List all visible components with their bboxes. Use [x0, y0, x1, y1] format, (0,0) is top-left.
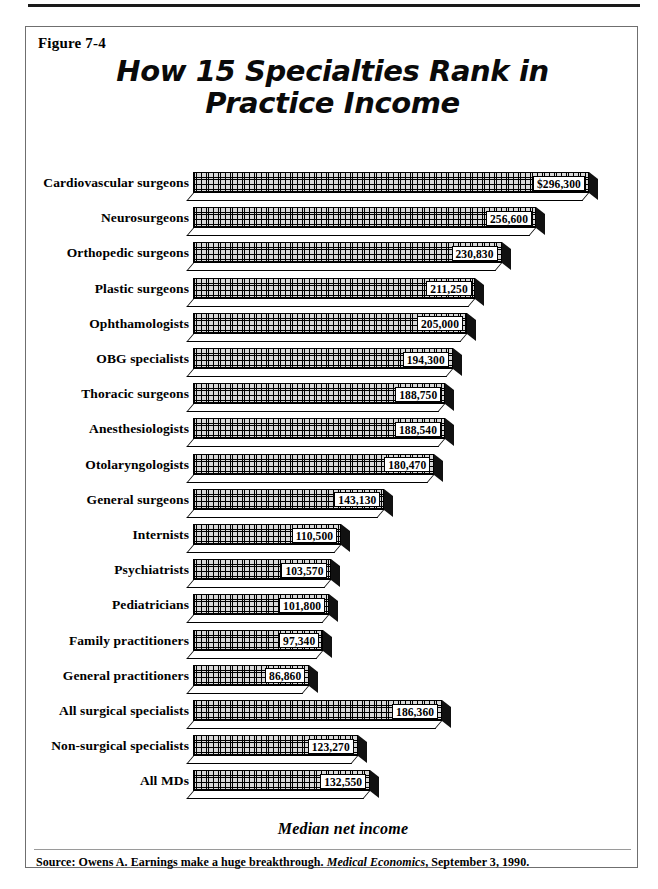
bar-category-label: Thoracic surgeons [0, 386, 189, 402]
bar-row: All MDs132,550 [26, 770, 639, 802]
bar-side-face [329, 594, 338, 622]
bar-bottom-face [186, 334, 467, 342]
bar-bottom-face [186, 263, 501, 271]
bar-value-label: 123,270 [308, 739, 354, 754]
bar-3d: 132,550 [193, 770, 370, 800]
bar-bottom-face [186, 615, 329, 623]
bar-category-label: Anesthesiologists [0, 421, 189, 437]
bar-category-label: Plastic surgeons [0, 281, 189, 297]
bar-category-label: Cardiovascular surgeons [0, 175, 189, 191]
bar-category-label: Family practitioners [0, 633, 189, 649]
figure-page: Figure 7-4 How 15 Specialties Rank in Pr… [0, 0, 658, 889]
bar-value-label: 256,600 [486, 211, 532, 226]
bar-side-face [502, 242, 511, 270]
bar-bottom-face [186, 545, 340, 553]
bar-bottom-face [186, 580, 331, 588]
bar-3d: 194,300 [193, 348, 453, 378]
bar-3d: 101,800 [193, 594, 329, 624]
bar-3d: 256,600 [193, 207, 536, 237]
bar-front-face [193, 172, 589, 193]
bar-row: Family practitioners97,340 [26, 630, 639, 662]
bar-value-label: 101,800 [279, 598, 325, 613]
figure-frame: Figure 7-4 How 15 Specialties Rank in Pr… [25, 26, 638, 868]
bar-3d: 205,000 [193, 313, 467, 343]
bar-3d: 211,250 [193, 278, 475, 308]
bar-bottom-face [186, 475, 434, 483]
bar-row: Neurosurgeons256,600 [26, 207, 639, 239]
bar-category-label: Psychiatrists [0, 562, 189, 578]
bar-row: OBG specialists194,300 [26, 348, 639, 380]
bar-side-face [331, 559, 340, 587]
bar-bottom-face [186, 193, 589, 201]
bar-category-label: Ophthamologists [0, 316, 189, 332]
bar-chart-plot-area: Cardiovascular surgeons$296,300Neurosurg… [26, 27, 639, 869]
bar-value-label: 132,550 [320, 774, 366, 789]
bar-value-label: $296,300 [533, 176, 585, 191]
bar-row: Pediatricians101,800 [26, 594, 639, 626]
bar-category-label: Pediatricians [0, 597, 189, 613]
bar-3d: 97,340 [193, 630, 323, 660]
bar-bottom-face [186, 651, 323, 659]
bar-3d: 103,570 [193, 559, 331, 589]
page-top-rule [28, 4, 640, 7]
bar-3d: 186,360 [193, 700, 442, 730]
bar-3d: 188,750 [193, 383, 445, 413]
bar-3d: 180,470 [193, 454, 434, 484]
bar-category-label: General surgeons [0, 492, 189, 508]
bar-row: Internists110,500 [26, 524, 639, 556]
source-divider [34, 849, 631, 850]
bar-row: Anesthesiologists188,540 [26, 418, 639, 450]
bar-value-label: 194,300 [403, 352, 449, 367]
bar-bottom-face [186, 791, 370, 799]
bar-front-face [193, 207, 536, 228]
bar-bottom-face [186, 299, 475, 307]
bar-3d: 143,130 [193, 489, 384, 519]
bar-category-label: All MDs [0, 773, 189, 789]
bar-category-label: Orthopedic surgeons [0, 245, 189, 261]
bar-row: Non-surgical specialists123,270 [26, 735, 639, 767]
bar-side-face [445, 383, 454, 411]
bar-row: General practitioners86,860 [26, 665, 639, 697]
bar-side-face [475, 278, 484, 306]
bar-category-label: OBG specialists [0, 351, 189, 367]
bar-side-face [358, 735, 367, 763]
bar-category-label: Internists [0, 527, 189, 543]
bar-side-face [309, 665, 318, 693]
bar-category-label: Otolaryngologists [0, 457, 189, 473]
bar-value-label: 103,570 [281, 563, 327, 578]
bar-side-face [384, 489, 393, 517]
bar-side-face [370, 770, 379, 798]
bar-bottom-face [186, 439, 445, 447]
bar-value-label: 211,250 [426, 281, 471, 296]
bar-3d: 110,500 [193, 524, 341, 554]
bar-side-face [341, 524, 350, 552]
bar-bottom-face [186, 369, 452, 377]
bar-value-label: 230,830 [452, 246, 498, 261]
source-prefix: Source: Owens A. Earnings make a huge br… [36, 855, 324, 869]
bar-bottom-face [186, 228, 536, 236]
axis-caption: Median net income [193, 820, 493, 838]
bar-value-label: 110,500 [292, 528, 337, 543]
bar-side-face [536, 207, 545, 235]
source-suffix: , September 3, 1990. [425, 855, 529, 869]
bar-value-label: 97,340 [279, 633, 319, 648]
bar-value-label: 143,130 [334, 492, 380, 507]
bar-3d: 188,540 [193, 418, 445, 448]
bar-3d: $296,300 [193, 172, 589, 202]
bar-row: Ophthamologists205,000 [26, 313, 639, 345]
bar-row: Thoracic surgeons188,750 [26, 383, 639, 415]
bar-row: Cardiovascular surgeons$296,300 [26, 172, 639, 204]
bar-side-face [445, 418, 454, 446]
source-note: Source: Owens A. Earnings make a huge br… [36, 855, 631, 870]
bar-category-label: Neurosurgeons [0, 210, 189, 226]
bar-value-label: 180,470 [384, 457, 430, 472]
bar-row: Plastic surgeons211,250 [26, 278, 639, 310]
bar-bottom-face [186, 510, 384, 518]
source-journal-title: Medical Economics [327, 855, 426, 869]
bar-side-face [442, 700, 451, 728]
bar-row: Orthopedic surgeons230,830 [26, 242, 639, 274]
bar-bottom-face [186, 686, 309, 694]
bar-category-label: Non-surgical specialists [0, 738, 189, 754]
bar-category-label: General practitioners [0, 668, 189, 684]
bar-value-label: 205,000 [417, 316, 463, 331]
